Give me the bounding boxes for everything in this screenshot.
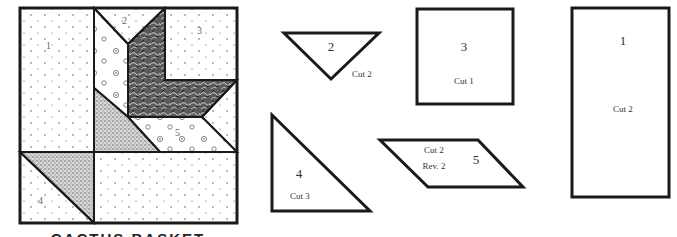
block-label-2: 2 bbox=[122, 15, 127, 26]
piece-5-rev: Rev. 2 bbox=[423, 161, 446, 171]
block-title: CACTUS BASKET bbox=[51, 230, 205, 237]
template-piece-2: 2 Cut 2 bbox=[284, 33, 379, 79]
template-piece-4: 4 Cut 3 bbox=[272, 115, 370, 211]
piece-4-cut: Cut 3 bbox=[290, 191, 310, 201]
block-label-5: 5 bbox=[175, 127, 180, 138]
quilt-block: 1 2 3 4 5 CACTUS BASKET bbox=[20, 8, 237, 237]
template-piece-1: 1 Cut 2 bbox=[572, 8, 669, 197]
template-piece-3: 3 Cut 1 bbox=[417, 9, 513, 104]
piece-5-cut: Cut 2 bbox=[424, 145, 444, 155]
template-piece-5: Cut 2 Rev. 2 5 bbox=[380, 140, 523, 187]
piece-3-number: 3 bbox=[461, 39, 468, 54]
piece-2-number: 2 bbox=[328, 39, 335, 54]
block-label-1: 1 bbox=[46, 40, 51, 51]
block-piece-1 bbox=[20, 8, 94, 152]
piece-2-cut: Cut 2 bbox=[352, 69, 372, 79]
quilt-diagram: 1 2 3 4 5 CACTUS BASKET 2 Cut 2 3 Cut 1 … bbox=[0, 0, 677, 237]
block-bottom-rectangle bbox=[94, 152, 237, 223]
piece-4-number: 4 bbox=[296, 166, 303, 181]
block-label-3: 3 bbox=[197, 25, 202, 36]
piece-3-cut: Cut 1 bbox=[454, 76, 474, 86]
piece-1-number: 1 bbox=[620, 33, 627, 48]
piece-5-number: 5 bbox=[473, 152, 480, 167]
block-label-4: 4 bbox=[38, 195, 43, 206]
piece-1-cut: Cut 2 bbox=[613, 104, 633, 114]
block-piece-3 bbox=[165, 8, 237, 80]
